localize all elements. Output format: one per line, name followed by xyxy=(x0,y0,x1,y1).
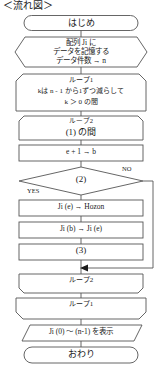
shape-loop1-start xyxy=(16,74,146,111)
shape-proc-jib xyxy=(19,222,143,238)
shape-process-b xyxy=(19,145,143,161)
shape-loop2-end xyxy=(19,274,143,293)
flowchart-shapes xyxy=(0,0,162,375)
shape-loop2-start xyxy=(19,116,143,140)
shape-decision-diamond xyxy=(19,167,143,195)
shape-loop1-end xyxy=(16,298,146,319)
shape-prepare-hexagon xyxy=(15,37,147,67)
shape-start-terminator xyxy=(24,16,138,31)
flowchart-diagram: ＜流れ図＞ はじめ 配列 Ji に データを記憶する データ件数 → n ループ… xyxy=(0,0,162,375)
shape-proc-three xyxy=(19,244,143,260)
shape-proc-hozon xyxy=(19,200,143,216)
shape-end-terminator xyxy=(24,347,138,363)
shape-output-parallelogram xyxy=(22,325,142,341)
